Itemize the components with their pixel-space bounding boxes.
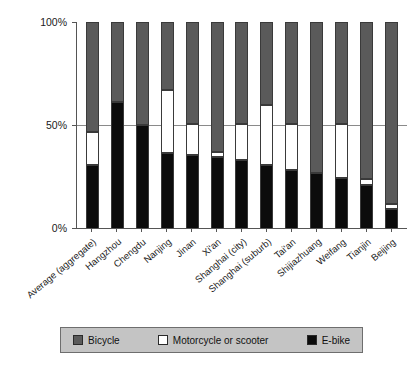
bar-segment-ebike — [261, 165, 272, 228]
bar-segment-bicycle — [112, 22, 123, 102]
bar-segment-bicycle — [286, 22, 297, 124]
stacked-bar — [86, 22, 99, 228]
bar-segment-motorcycle — [261, 105, 272, 165]
legend: Bicycle Motorcycle or scooter E-bike — [60, 327, 363, 353]
stacked-bar — [285, 22, 298, 228]
legend-label-ebike: E-bike — [322, 335, 350, 346]
stacked-bar-chart: 100% 50% 0% Average (aggregate)HangzhouC… — [0, 0, 417, 374]
stacked-bar — [335, 22, 348, 228]
bar-column — [379, 22, 404, 228]
bar-column — [180, 22, 205, 228]
bar-segment-bicycle — [261, 22, 272, 105]
stacked-bar — [136, 22, 149, 228]
bar-column — [105, 22, 130, 228]
bar-segment-bicycle — [236, 22, 247, 124]
stacked-bar — [360, 22, 373, 228]
bar-column — [279, 22, 304, 228]
x-axis-label: Tianjin — [344, 236, 372, 262]
bar-column — [304, 22, 329, 228]
stacked-bar — [111, 22, 124, 228]
legend-item-bicycle: Bicycle — [73, 335, 120, 346]
bar-segment-ebike — [386, 209, 397, 228]
bar-segment-bicycle — [386, 22, 397, 204]
bar-column — [80, 22, 105, 228]
stacked-bar — [310, 22, 323, 228]
bar-segment-ebike — [236, 160, 247, 228]
bar-column — [155, 22, 180, 228]
bar-segment-ebike — [286, 170, 297, 228]
x-axis-label: Jinan — [174, 236, 198, 259]
stacked-bar — [260, 22, 273, 228]
bicycle-swatch-icon — [73, 335, 83, 345]
bars-container — [77, 22, 407, 228]
bar-segment-bicycle — [361, 22, 372, 179]
bar-segment-bicycle — [336, 22, 347, 124]
bar-segment-ebike — [137, 125, 148, 228]
bar-segment-motorcycle — [87, 132, 98, 165]
bar-segment-bicycle — [87, 22, 98, 132]
bar-segment-ebike — [361, 185, 372, 228]
bar-segment-ebike — [87, 165, 98, 228]
bar-column — [254, 22, 279, 228]
plot-area — [76, 22, 407, 229]
bar-column — [205, 22, 230, 228]
bar-segment-ebike — [162, 153, 173, 228]
bar-segment-ebike — [336, 178, 347, 228]
y-axis: 100% 50% 0% — [0, 0, 72, 374]
bar-segment-motorcycle — [187, 124, 198, 155]
bar-segment-bicycle — [187, 22, 198, 124]
x-axis-label: Beijing — [368, 236, 397, 263]
stacked-bar — [161, 22, 174, 228]
bar-segment-motorcycle — [236, 124, 247, 160]
stacked-bar — [385, 22, 398, 228]
bar-segment-bicycle — [162, 22, 173, 90]
stacked-bar — [186, 22, 199, 228]
bar-segment-ebike — [187, 155, 198, 228]
stacked-bar — [211, 22, 224, 228]
stacked-bar — [235, 22, 248, 228]
bar-column — [230, 22, 255, 228]
bar-segment-ebike — [212, 157, 223, 228]
bar-segment-ebike — [112, 102, 123, 228]
motorcycle-swatch-icon — [158, 335, 168, 345]
legend-item-ebike: E-bike — [307, 335, 350, 346]
bar-column — [130, 22, 155, 228]
legend-label-bicycle: Bicycle — [88, 335, 120, 346]
bar-segment-bicycle — [311, 22, 322, 173]
bar-column — [354, 22, 379, 228]
bar-column — [329, 22, 354, 228]
bar-segment-motorcycle — [336, 124, 347, 178]
y-tick-label-50: 50% — [46, 119, 67, 131]
legend-item-motorcycle: Motorcycle or scooter — [120, 335, 307, 346]
x-axis-label: Nanjing — [142, 236, 174, 265]
ebike-swatch-icon — [307, 335, 317, 345]
bar-segment-ebike — [311, 173, 322, 228]
bar-segment-bicycle — [212, 22, 223, 152]
bar-segment-motorcycle — [286, 124, 297, 170]
legend-label-motorcycle: Motorcycle or scooter — [173, 335, 269, 346]
bar-segment-motorcycle — [162, 90, 173, 153]
x-axis-labels: Average (aggregate)HangzhouChengduNanjin… — [0, 232, 417, 312]
y-tick-label-100: 100% — [40, 16, 67, 28]
bar-segment-bicycle — [137, 22, 148, 125]
